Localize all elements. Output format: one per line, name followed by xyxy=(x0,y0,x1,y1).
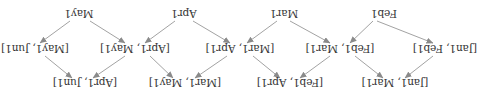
edge-mar1apr1-mar1may1 xyxy=(195,56,227,78)
node-jan1-mar1: [Jan1, Mar1] xyxy=(362,78,428,89)
edge-apr1-apr1may1 xyxy=(145,21,175,43)
edge-feb1-feb1mar1 xyxy=(350,21,373,43)
node-mar1-apr1: [Mar1, Apr1] xyxy=(206,44,274,55)
node-mar1: Mar1 xyxy=(270,9,298,20)
node-apr1-jun1: [Apr1, Jun1] xyxy=(53,78,117,89)
edge-apr1may1-mar1may1 xyxy=(150,56,173,78)
edge-may1jun1-apr1jun1 xyxy=(45,56,72,78)
node-may1: May1 xyxy=(64,9,93,20)
node-mar1-may1: [Mar1, May1] xyxy=(149,78,221,89)
edge-mar1-mar1apr1 xyxy=(247,21,277,43)
edge-feb1mar1-feb1apr1 xyxy=(300,56,330,78)
edge-may1-may1jun1 xyxy=(40,21,70,43)
node-feb1: Feb1 xyxy=(371,9,397,20)
diagram-canvas: [Jan1, Mar1] [Feb1, Apr1] [Mar1, May1] [… xyxy=(0,0,485,93)
edge-apr1may1-apr1jun1 xyxy=(93,56,125,78)
node-may1-jun1: [May1, Jun1] xyxy=(1,44,69,55)
edge-feb1-jan1feb1 xyxy=(377,21,433,43)
edge-apr1-mar1apr1 xyxy=(193,21,230,43)
node-feb1-apr1: [Feb1, Apr1] xyxy=(257,78,323,89)
node-jan1-feb1: [Jan1, Feb1] xyxy=(413,44,477,55)
interval-lattice-diagram: [Jan1, Mar1] [Feb1, Apr1] [Mar1, May1] [… xyxy=(0,0,485,93)
edge-feb1mar1-jan1mar1 xyxy=(355,56,383,78)
node-feb1-mar1: [Feb1, Mar1] xyxy=(306,44,375,55)
edge-mar1apr1-feb1apr1 xyxy=(253,56,280,78)
node-apr1-may1: [Apr1, May1] xyxy=(100,44,169,55)
edge-jan1feb1-jan1mar1 xyxy=(405,56,433,78)
edge-may1-apr1may1 xyxy=(90,21,125,43)
edge-mar1-feb1mar1 xyxy=(290,21,330,43)
node-apr1: Apr1 xyxy=(171,9,197,20)
